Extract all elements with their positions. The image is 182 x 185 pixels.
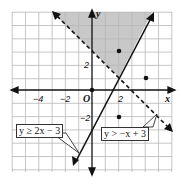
point-2-4 [117, 49, 122, 54]
y-axis-label: y [96, 8, 100, 19]
x-tick-2: 2 [118, 94, 123, 104]
coordinate-graph [0, 0, 182, 185]
y-tick-neg2: −2 [80, 113, 90, 123]
x-tick-neg2: −2 [60, 94, 70, 104]
point-4-1 [144, 76, 149, 81]
solid-line-inequality-label: y ≥ 2x − 3 [16, 124, 63, 138]
dashed-line-inequality-label: y > −x + 3 [101, 127, 149, 141]
x-tick-neg4: −4 [33, 94, 43, 104]
point-2-neg2 [117, 115, 122, 120]
x-axis-label: x [165, 93, 170, 104]
point-origin [90, 88, 95, 93]
y-tick-2: 2 [84, 60, 89, 70]
origin-label: O [83, 93, 90, 104]
